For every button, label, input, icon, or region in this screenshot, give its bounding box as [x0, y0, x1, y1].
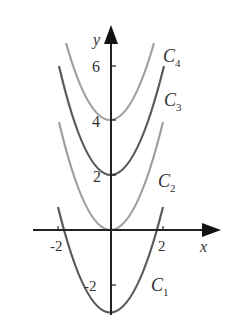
x-axis-label: x	[199, 238, 207, 255]
label-c1: C1	[151, 275, 169, 298]
y-tick-label-4: 4	[92, 113, 100, 130]
y-axis-arrow-icon	[104, 25, 118, 44]
x-tick-label-2: 2	[158, 238, 166, 254]
x-tick-label-neg2: -2	[50, 238, 63, 254]
label-c4: C4	[163, 46, 181, 69]
y-tick-label-neg2: -2	[84, 278, 97, 294]
label-c2: C2	[158, 171, 176, 194]
y-axis-label: y	[91, 31, 101, 49]
y-tick-label-6: 6	[92, 58, 100, 75]
label-c3: C3	[164, 90, 182, 113]
parabola-family-chart: -2 2 6 4 2 -2 x y C4 C3 C2 C1	[0, 0, 233, 315]
y-tick-label-2: 2	[93, 168, 101, 185]
x-axis-arrow-icon	[202, 223, 221, 237]
